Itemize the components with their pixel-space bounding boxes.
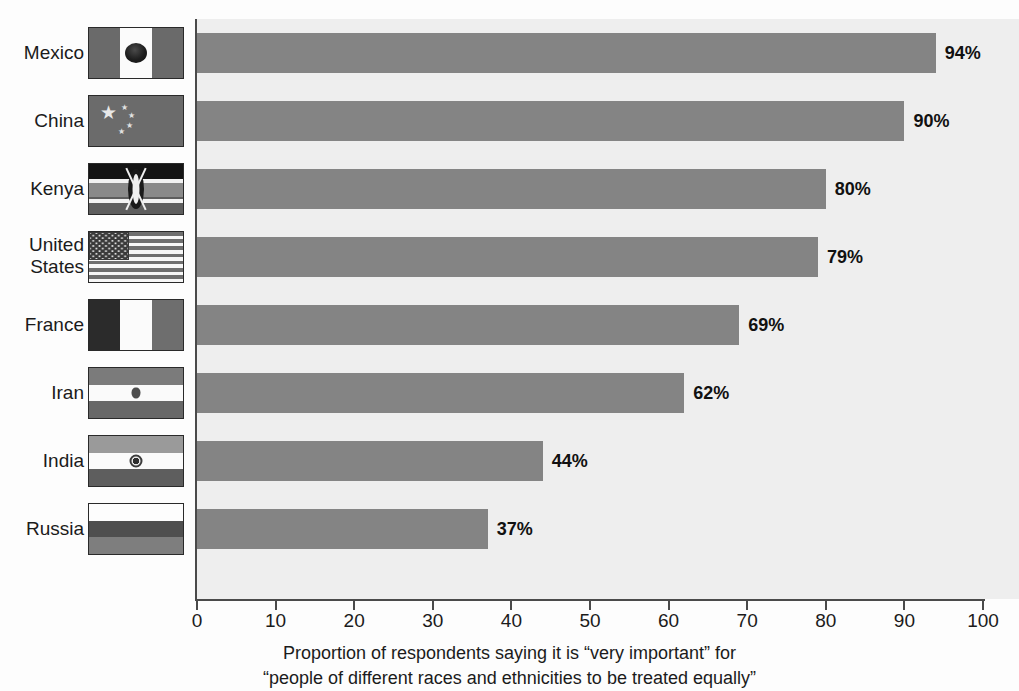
tick-mark-0 (196, 601, 198, 610)
tick-mark-70 (746, 601, 748, 610)
tick-label-80: 80 (815, 610, 836, 632)
flag-usa-icon (88, 231, 184, 283)
chart-row: India44% (0, 430, 1019, 498)
chart-row: UnitedStates79% (0, 226, 1019, 294)
mexico-eagle-emblem (125, 43, 147, 63)
bar-value-china: 90% (913, 101, 949, 141)
chart-row: Kenya80% (0, 158, 1019, 226)
flag-mexico-icon (88, 27, 184, 79)
tick-mark-30 (432, 601, 434, 610)
tick-label-10: 10 (265, 610, 286, 632)
bar-value-united-states: 79% (827, 237, 863, 277)
flag-kenya-icon (88, 163, 184, 215)
cropped-title-sliver (0, 0, 1019, 14)
country-label-mexico: Mexico (0, 41, 84, 64)
tick-label-40: 40 (501, 610, 522, 632)
bar-iran (197, 373, 684, 413)
bar-value-russia: 37% (497, 509, 533, 549)
flag-russia-icon (88, 503, 184, 555)
flag-france-icon (88, 299, 184, 351)
chart-row: Iran62% (0, 362, 1019, 430)
chart-row: China★★★★★90% (0, 90, 1019, 158)
tick-label-100: 100 (967, 610, 999, 632)
tick-mark-100 (982, 601, 984, 610)
tick-label-70: 70 (737, 610, 758, 632)
flag-iran-icon (88, 367, 184, 419)
tick-label-30: 30 (422, 610, 443, 632)
bar-value-france: 69% (748, 305, 784, 345)
india-ashoka-chakra (130, 455, 143, 468)
country-label-united-states: UnitedStates (0, 234, 84, 278)
iran-emblem (132, 388, 141, 399)
bar-mexico (197, 33, 936, 73)
bar-kenya (197, 169, 826, 209)
chart-caption: Proportion of respondents saying it is “… (0, 641, 1019, 691)
country-label-france: France (0, 313, 84, 336)
tick-label-60: 60 (658, 610, 679, 632)
usa-stars (90, 233, 128, 259)
country-label-india: India (0, 449, 84, 472)
tick-mark-40 (510, 601, 512, 610)
country-label-russia: Russia (0, 517, 84, 540)
bar-france (197, 305, 739, 345)
bar-value-india: 44% (552, 441, 588, 481)
bar-russia (197, 509, 488, 549)
bar-value-kenya: 80% (835, 169, 871, 209)
caption-line-2: “people of different races and ethniciti… (0, 666, 1019, 691)
tick-mark-60 (668, 601, 670, 610)
china-small-star-3: ★ (126, 122, 133, 130)
tick-mark-80 (825, 601, 827, 610)
flag-india-icon (88, 435, 184, 487)
country-label-china: China (0, 109, 84, 132)
chart-row: Russia37% (0, 498, 1019, 566)
bar-value-mexico: 94% (945, 33, 981, 73)
chart-row: France69% (0, 294, 1019, 362)
bar-chart-figure: Mexico94%China★★★★★90%Kenya80%UnitedStat… (0, 0, 1019, 691)
tick-label-50: 50 (579, 610, 600, 632)
bar-united-states (197, 237, 818, 277)
chart-row: Mexico94% (0, 22, 1019, 90)
tick-label-90: 90 (894, 610, 915, 632)
country-label-iran: Iran (0, 381, 84, 404)
tick-label-20: 20 (344, 610, 365, 632)
caption-line-1: Proportion of respondents saying it is “… (0, 641, 1019, 666)
country-label-kenya: Kenya (0, 177, 84, 200)
china-small-star-2: ★ (128, 112, 135, 120)
tick-mark-50 (589, 601, 591, 610)
tick-mark-20 (353, 601, 355, 610)
tick-mark-10 (275, 601, 277, 610)
bar-value-iran: 62% (693, 373, 729, 413)
tick-label-0: 0 (192, 610, 203, 632)
china-small-star-4: ★ (118, 128, 125, 136)
bar-china (197, 101, 904, 141)
bar-india (197, 441, 543, 481)
flag-china-icon: ★★★★★ (88, 95, 184, 147)
tick-mark-90 (903, 601, 905, 610)
china-small-star-1: ★ (121, 104, 128, 112)
